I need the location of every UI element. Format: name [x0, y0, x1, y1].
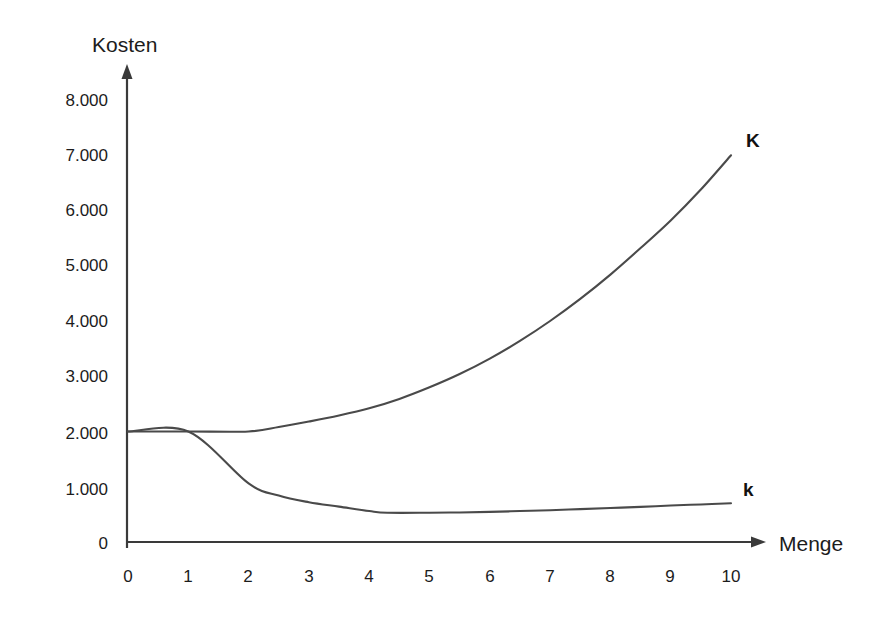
x-tick-label: 2 — [243, 567, 252, 586]
y-axis — [122, 64, 133, 548]
y-tick-label: 4.000 — [65, 312, 108, 331]
x-tick-label: 6 — [485, 567, 494, 586]
y-tick-label: 1.000 — [65, 480, 108, 499]
x-tick-label: 4 — [364, 567, 373, 586]
x-tick-label: 5 — [424, 567, 433, 586]
y-tick-label: 2.000 — [65, 424, 108, 443]
y-tick-label: 6.000 — [65, 201, 108, 220]
x-tick-label: 1 — [183, 567, 192, 586]
cost-curves-chart: Kosten Menge 8.000 7.000 6.000 5.000 4.0… — [0, 0, 876, 619]
x-tick-label: 7 — [545, 567, 554, 586]
y-tick-label: 0 — [99, 534, 108, 553]
curve-label-total-cost: K — [746, 130, 760, 151]
x-tick-label: 9 — [665, 567, 674, 586]
y-tick-label: 8.000 — [65, 91, 108, 110]
y-tick-label: 5.000 — [65, 256, 108, 275]
curve-total-cost — [128, 155, 731, 432]
x-axis — [127, 537, 766, 548]
y-tick-label: 3.000 — [65, 367, 108, 386]
curve-unit-cost — [128, 428, 731, 513]
x-tick-label: 3 — [304, 567, 313, 586]
y-axis-arrowhead — [122, 64, 133, 79]
curve-label-unit-cost: k — [743, 479, 754, 500]
chart-canvas: Kosten Menge 8.000 7.000 6.000 5.000 4.0… — [0, 0, 876, 619]
y-tick-labels: 8.000 7.000 6.000 5.000 4.000 3.000 2.00… — [65, 91, 108, 553]
x-axis-arrowhead — [751, 537, 766, 548]
x-tick-label: 10 — [722, 567, 741, 586]
x-tick-label: 8 — [605, 567, 614, 586]
x-axis-title: Menge — [779, 532, 843, 555]
y-tick-label: 7.000 — [65, 146, 108, 165]
x-tick-label: 0 — [123, 567, 132, 586]
y-axis-title: Kosten — [92, 33, 157, 56]
x-tick-labels: 0 1 2 3 4 5 6 7 8 9 10 — [123, 567, 740, 586]
